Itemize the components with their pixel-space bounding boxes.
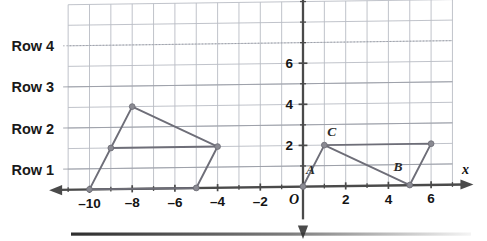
vertex-marker	[193, 185, 199, 191]
row-labels: Row 1Row 2Row 3Row 4	[11, 38, 54, 177]
x-axis-arrow-right	[460, 179, 473, 189]
coordinate-plane-figure: –10–8–6–4–2246246O Row 1Row 2Row 3Row 4 …	[0, 0, 487, 241]
x-axis-name-label: x	[461, 162, 469, 177]
vertex-marker	[300, 184, 306, 190]
y-axis-arrow-down	[298, 226, 308, 239]
vertex-marker	[428, 141, 434, 147]
x-tick-label: –10	[78, 196, 101, 211]
point-label-a: A	[305, 162, 315, 177]
x-tick-label: –8	[125, 195, 141, 210]
row-label: Row 4	[11, 38, 54, 54]
bottom-divider-bar	[71, 233, 471, 236]
x-axis-arrow-left	[49, 185, 62, 195]
row-label: Row 1	[11, 162, 54, 178]
x-tick-label: –6	[167, 195, 183, 210]
x-tick-label: –2	[253, 194, 268, 209]
point-label-c: C	[327, 124, 337, 139]
x-tick-label: 6	[427, 191, 435, 206]
vertex-marker	[108, 145, 114, 151]
graph-canvas: –10–8–6–4–2246246O Row 1Row 2Row 3Row 4 …	[0, 0, 487, 241]
x-tick-label: 4	[385, 192, 393, 207]
vertex-marker	[129, 104, 135, 110]
y-tick-label: 4	[285, 97, 293, 112]
row-label: Row 2	[11, 121, 54, 137]
vertex-marker	[215, 144, 221, 150]
bottom-bar	[71, 233, 471, 236]
y-tick-label: 2	[285, 138, 293, 153]
x-tick-label: 2	[342, 192, 350, 207]
vertex-marker	[321, 142, 327, 148]
point-labels: ABC	[305, 124, 403, 177]
vertex-marker	[87, 186, 93, 192]
shape-left-inner-segment	[111, 147, 218, 148]
point-label-b: B	[392, 159, 402, 174]
x-tick-label: –4	[210, 194, 226, 209]
row-label: Row 3	[11, 79, 54, 95]
row-guide-line	[63, 82, 452, 87]
origin-label: O	[289, 192, 299, 207]
vertex-marker	[407, 182, 413, 188]
y-tick-label: 6	[285, 56, 293, 71]
